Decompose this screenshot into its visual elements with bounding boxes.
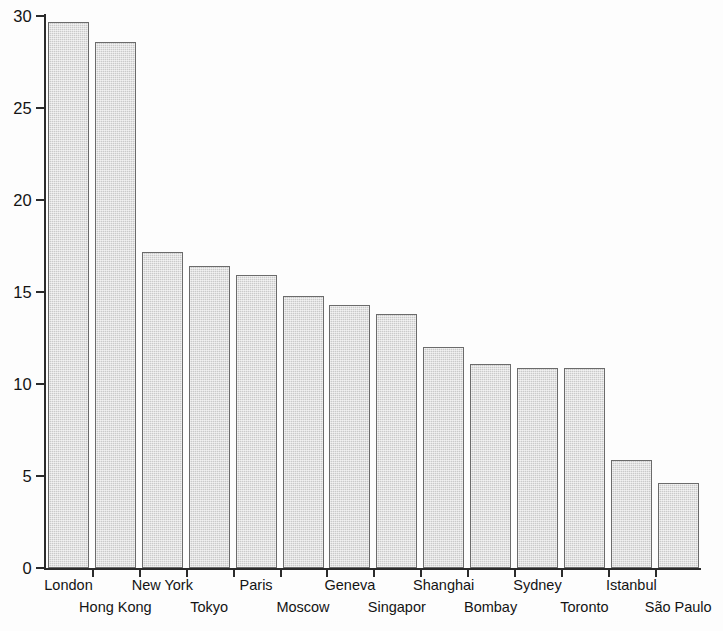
x-axis-label: Shanghai: [413, 578, 474, 593]
x-axis-label: London: [44, 578, 92, 593]
bar-chart: 051015202530 LondonHong KongNew YorkToky…: [0, 0, 723, 631]
x-axis-label: Geneva: [324, 578, 375, 593]
y-tick-0: [36, 567, 44, 569]
x-axis-label: Istanbul: [606, 578, 657, 593]
x-tick-5: [280, 568, 282, 577]
x-tick-10: [514, 568, 516, 577]
x-axis-label: Tokyo: [190, 600, 228, 615]
x-axis-label: Sydney: [513, 578, 561, 593]
x-tick-8: [420, 568, 422, 577]
bar: [470, 364, 511, 568]
y-tick-20: [36, 199, 44, 201]
x-tick-6: [326, 568, 328, 577]
y-tick-label-5: 5: [0, 468, 32, 485]
bar: [283, 296, 324, 568]
y-tick-25: [36, 107, 44, 109]
y-tick-5: [36, 475, 44, 477]
x-axis-label: Hong Kong: [79, 600, 152, 615]
x-axis-label: São Paulo: [645, 600, 712, 615]
x-tick-2: [139, 568, 141, 577]
y-tick-label-10: 10: [0, 376, 32, 393]
bar: [658, 483, 699, 568]
bar: [236, 275, 277, 568]
bar: [142, 252, 183, 568]
bar: [189, 266, 230, 568]
bar: [329, 305, 370, 568]
y-tick-30: [36, 15, 44, 17]
x-axis-label: Moscow: [276, 600, 329, 615]
x-axis-label: Bombay: [464, 600, 517, 615]
bar: [376, 314, 417, 568]
bar: [48, 22, 89, 568]
x-axis-label: Toronto: [560, 600, 608, 615]
bar: [517, 368, 558, 568]
x-axis-label: New York: [132, 578, 193, 593]
x-tick-7: [373, 568, 375, 577]
y-tick-15: [36, 291, 44, 293]
y-tick-label-20: 20: [0, 192, 32, 209]
y-axis-line: [44, 14, 46, 570]
x-axis-label: Paris: [240, 578, 273, 593]
y-tick-label-30: 30: [0, 8, 32, 25]
x-axis-label: Singapor: [368, 600, 426, 615]
y-tick-10: [36, 383, 44, 385]
x-tick-1: [92, 568, 94, 577]
x-tick-9: [467, 568, 469, 577]
y-tick-label-0: 0: [0, 560, 32, 577]
x-tick-4: [233, 568, 235, 577]
bar: [564, 368, 605, 568]
x-tick-12: [608, 568, 610, 577]
bar: [611, 460, 652, 568]
bar: [423, 347, 464, 568]
x-tick-3: [186, 568, 188, 577]
x-tick-13: [655, 568, 657, 577]
bar: [95, 42, 136, 568]
plot-area: 051015202530 LondonHong KongNew YorkToky…: [0, 0, 723, 631]
x-tick-11: [561, 568, 563, 577]
y-tick-label-25: 25: [0, 100, 32, 117]
y-tick-label-15: 15: [0, 284, 32, 301]
